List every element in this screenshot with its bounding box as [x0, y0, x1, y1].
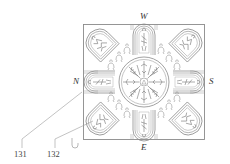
center-medallion	[119, 57, 169, 107]
reference-132: 132	[47, 150, 60, 159]
compass-north-label: N	[73, 77, 79, 86]
panel-top-right	[169, 24, 207, 62]
panel-bottom-left	[81, 102, 119, 140]
panel-top-left	[81, 24, 119, 62]
panel-top	[133, 24, 155, 55]
leader-131	[22, 92, 82, 148]
panel-left	[84, 71, 115, 93]
hook-icon	[72, 138, 78, 148]
reference-131: 131	[14, 150, 27, 159]
panel-right	[173, 71, 204, 93]
panel-bottom	[133, 110, 155, 141]
plan-diagram	[0, 0, 230, 164]
compass-east-label: E	[141, 143, 147, 152]
compass-south-label: S	[209, 77, 214, 86]
panel-bottom-right	[169, 102, 207, 140]
leader-lines	[22, 92, 93, 148]
compass-west-label: W	[140, 12, 148, 21]
leader-132	[55, 121, 93, 148]
